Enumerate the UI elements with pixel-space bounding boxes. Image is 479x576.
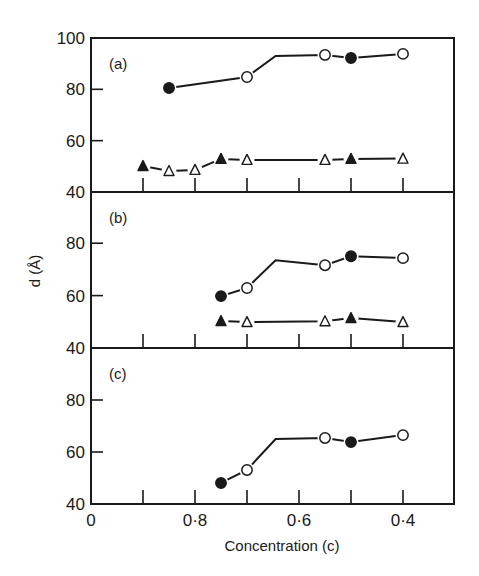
y-tick-label: 100: [57, 29, 85, 48]
y-tick-label: 60: [66, 287, 85, 306]
open-circle-marker: [320, 260, 330, 270]
open-circle-marker: [398, 49, 408, 59]
y-tick-label: 60: [66, 443, 85, 462]
panels: 406080100(a)406080(b)406080(c): [57, 29, 454, 514]
open-circle-marker: [242, 72, 252, 82]
panel-label: (b): [109, 209, 127, 226]
y-tick-label: 40: [66, 183, 85, 202]
x-axis-title: Concentration (c): [224, 537, 339, 554]
x-axis: 00·80·60·4: [86, 511, 415, 530]
chart-figure: 406080100(a)406080(b)406080(c) 00·80·60·…: [0, 0, 479, 576]
series-line: [143, 159, 403, 171]
panel-label: (c): [109, 365, 127, 382]
open-circle-marker: [320, 433, 330, 443]
series-line: [169, 54, 403, 88]
series-upper: [214, 428, 411, 491]
y-tick-label: 40: [66, 339, 85, 358]
x-tick-label: 0·8: [183, 511, 208, 530]
filled-circle-marker: [346, 437, 356, 447]
x-tick-label: 0·4: [391, 511, 416, 530]
panel-a: 406080100(a): [57, 29, 454, 202]
panel-c: 406080(c): [66, 365, 454, 514]
y-tick-label: 80: [66, 80, 85, 99]
open-circle-marker: [398, 253, 408, 263]
filled-circle-marker: [216, 478, 226, 488]
open-circle-marker: [242, 283, 252, 293]
series-upper: [214, 249, 411, 304]
series-lower: [214, 311, 411, 330]
y-tick-label: 80: [66, 391, 85, 410]
x-tick-label: 0: [86, 511, 95, 530]
open-circle-marker: [320, 50, 330, 60]
panel-label: (a): [109, 55, 127, 72]
series-lower: [136, 151, 411, 178]
y-axis-title: d (Å): [26, 255, 43, 288]
filled-circle-marker: [216, 291, 226, 301]
x-tick-label: 0·6: [287, 511, 312, 530]
series-upper: [162, 46, 411, 95]
panel-b: 406080(b): [66, 209, 454, 358]
y-tick-label: 40: [66, 495, 85, 514]
filled-circle-marker: [346, 53, 356, 63]
y-axis-title-text: d (Å): [26, 255, 43, 288]
filled-circle-marker: [164, 83, 174, 93]
open-circle-marker: [242, 465, 252, 475]
y-tick-label: 80: [66, 234, 85, 253]
y-tick-label: 60: [66, 132, 85, 151]
filled-circle-marker: [346, 251, 356, 261]
open-circle-marker: [398, 430, 408, 440]
